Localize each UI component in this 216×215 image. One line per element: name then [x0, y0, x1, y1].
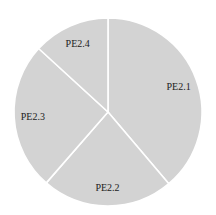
slice-label: PE2.1: [167, 81, 191, 92]
slice-label: PE2.4: [66, 38, 90, 49]
slice-label: PE2.3: [21, 111, 45, 122]
slice-label: PE2.2: [95, 182, 119, 193]
pie-chart: PE2.1PE2.2PE2.3PE2.4: [0, 0, 216, 215]
